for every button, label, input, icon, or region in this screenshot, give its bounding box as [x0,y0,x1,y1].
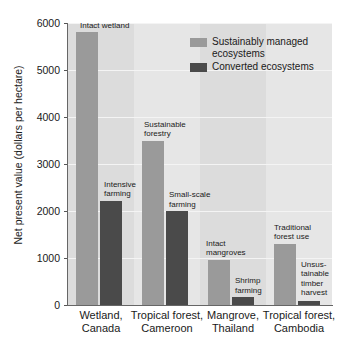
bar [274,244,296,305]
y-tick-label: 1000 [14,253,60,263]
y-tick-label: 3000 [14,159,60,169]
gridline [68,164,332,165]
y-tick-label: 6000 [14,18,60,28]
gridline [68,117,332,118]
chart-container: Net present value (dollars per hectare) … [0,0,346,350]
bar-value-label: Unsus- tainable timber harvest [301,260,329,298]
legend-swatch-sustainable [190,38,207,47]
x-axis-label: Tropical forest, Cambodia [252,309,346,335]
y-axis-line [67,23,68,306]
bar-value-label: Intact wetland [80,21,129,31]
x-axis-line [67,305,333,306]
y-tick-label: 4000 [14,112,60,122]
bar [142,141,164,306]
bar-value-label: Traditional forest use [274,223,311,242]
legend-label-sustainable: Sustainably managed ecosystems [212,36,308,59]
legend: Sustainably managed ecosystems Converted… [190,36,336,75]
bar [232,297,254,305]
bar [166,211,188,305]
bar [76,32,98,305]
y-tick-label: 5000 [14,65,60,75]
legend-item: Sustainably managed ecosystems [190,36,336,59]
bar-value-label: Intensive farming [104,180,136,199]
bar [208,260,230,305]
legend-label-converted: Converted ecosystems [212,61,314,73]
bar-value-label: Shrimp farming [235,276,262,295]
bar-value-label: Intact mangroves [206,239,246,258]
bar-value-label: Small-scale farming [169,190,210,209]
y-tick-label: 2000 [14,206,60,216]
legend-swatch-converted [190,63,207,72]
bar-value-label: Sustainable forestry [144,120,186,139]
legend-item: Converted ecosystems [190,61,336,73]
bar [100,201,122,305]
